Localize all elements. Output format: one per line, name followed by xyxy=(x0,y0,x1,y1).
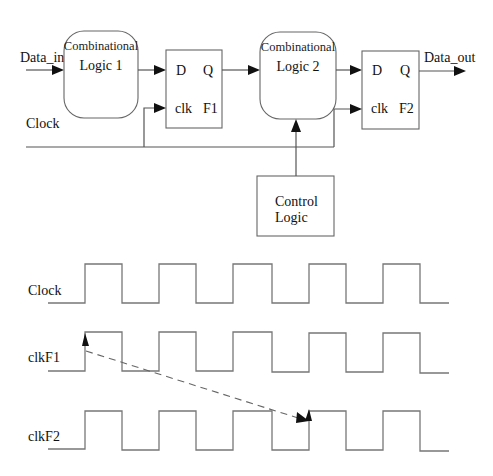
comb-logic-2-subtitle: Logic 2 xyxy=(276,59,319,74)
comb-logic-1-title: Combinational xyxy=(64,39,139,53)
comb-logic-1-subtitle: Logic 1 xyxy=(79,58,122,73)
data-in-arrow-icon xyxy=(52,65,64,75)
clock-label: Clock xyxy=(26,116,59,131)
comb-logic-2-block: Combinational Logic 2 xyxy=(260,32,336,119)
timing-label-clock: Clock xyxy=(28,283,61,298)
f2-q-pin: Q xyxy=(400,63,410,78)
control-logic-line1: Control xyxy=(275,194,318,209)
f2-d-arrow-icon xyxy=(350,65,362,75)
f2-clk-arrow-icon xyxy=(350,104,362,114)
clock-waveform xyxy=(48,264,449,303)
flipflop-f2: D Q clk F2 xyxy=(362,51,419,129)
control-arrow-icon xyxy=(291,119,301,132)
clkf1-waveform xyxy=(48,332,449,373)
flipflop-f1: D Q clk F1 xyxy=(166,50,222,128)
f1-clk-arrow-icon xyxy=(154,103,166,113)
f1-d-arrow-icon xyxy=(154,65,166,75)
f1-q-pin: Q xyxy=(203,63,213,78)
data-out-arrow-icon xyxy=(454,66,466,76)
f2-name: F2 xyxy=(399,101,414,116)
f1-clk-wire xyxy=(144,108,158,147)
f1-name: F1 xyxy=(203,101,218,116)
comb-logic-1-block: Combinational Logic 1 xyxy=(64,31,139,118)
timing-label-clkf1: clkF1 xyxy=(28,350,60,365)
timing-label-clkf2: clkF2 xyxy=(28,429,60,444)
control-logic-block: Control Logic xyxy=(257,176,334,236)
f1-clk-pin: clk xyxy=(175,101,192,116)
diagram-canvas: Data_in Combinational Logic 1 D Q clk F1… xyxy=(0,0,493,476)
f2-clk-pin: clk xyxy=(371,101,388,116)
clkf1-edge-arrow-icon xyxy=(82,333,89,346)
clkf2-waveform xyxy=(48,411,449,451)
skew-dashed-line xyxy=(86,351,298,418)
f2-clk-wire xyxy=(334,109,354,147)
comb-logic-2-title: Combinational xyxy=(261,40,336,54)
data-out-label: Data_out xyxy=(424,50,475,65)
f1-d-pin: D xyxy=(176,63,186,78)
control-logic-line2: Logic xyxy=(275,210,308,225)
cl2-input-arrow-icon xyxy=(248,65,260,75)
data-in-label: Data_in xyxy=(20,50,64,65)
f2-d-pin: D xyxy=(372,63,382,78)
